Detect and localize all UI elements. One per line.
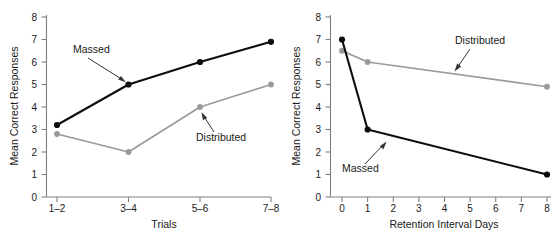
left-xtick-3-4: 3–4 [120, 203, 137, 214]
left-ytick-0: 0 [31, 192, 37, 203]
right-x-ticks [342, 197, 547, 202]
figure-two-panel-line-charts: 0 1 2 3 4 5 6 7 8 1–2 3–4 5–6 7–8 Trials… [0, 0, 560, 237]
chart-panel-left: 0 1 2 3 4 5 6 7 8 1–2 3–4 5–6 7–8 Trials… [0, 0, 280, 237]
right-leader-distributed-arrowhead [455, 64, 462, 72]
right-series-distributed-line [342, 51, 547, 87]
left-ytick-4: 4 [31, 102, 37, 113]
right-xtick-1: 1 [365, 203, 371, 214]
chart-panel-right: 0 1 2 3 4 5 6 7 8 0 1 2 [280, 0, 560, 237]
left-ytick-5: 5 [31, 79, 37, 90]
left-label-distributed: Distributed [196, 131, 246, 143]
left-x-axis-title: Trials [151, 218, 176, 230]
left-y-axis-title: Mean Correct Responses [8, 46, 20, 165]
left-ytick-8: 8 [31, 12, 37, 23]
left-leader-massed-arrowhead [118, 76, 126, 83]
right-xtick-4: 4 [442, 203, 448, 214]
right-xtick-2: 2 [390, 203, 396, 214]
right-xtick-5: 5 [467, 203, 473, 214]
right-ytick-5: 5 [315, 79, 321, 90]
right-xtick-8: 8 [544, 203, 550, 214]
left-xtick-7-8: 7–8 [263, 203, 280, 214]
right-x-axis-title: Retention Interval Days [389, 218, 498, 230]
left-xtick-5-6: 5–6 [192, 203, 209, 214]
left-series-distributed-points [54, 82, 274, 155]
right-label-distributed: Distributed [455, 34, 505, 46]
right-series-massed-points [339, 36, 550, 177]
right-xtick-6: 6 [493, 203, 499, 214]
right-leader-massed-arrowhead [380, 142, 387, 150]
right-ytick-8: 8 [315, 12, 321, 23]
right-ytick-0: 0 [315, 192, 321, 203]
left-ytick-1: 1 [31, 169, 37, 180]
right-xtick-0: 0 [339, 203, 345, 214]
right-ytick-7: 7 [315, 34, 321, 45]
left-label-massed: Massed [73, 43, 110, 55]
right-y-ticks [326, 17, 331, 197]
left-ytick-2: 2 [31, 147, 37, 158]
left-leader-distributed-arrowhead [202, 112, 208, 120]
right-y-axis-title: Mean Correct Responses [290, 46, 302, 165]
right-ytick-1: 1 [315, 169, 321, 180]
left-x-ticks [57, 197, 271, 202]
right-xtick-3: 3 [416, 203, 422, 214]
right-label-massed: Massed [342, 162, 379, 174]
right-series-massed-line [342, 40, 547, 175]
right-xtick-7: 7 [519, 203, 525, 214]
left-xtick-1-2: 1–2 [49, 203, 66, 214]
left-ytick-7: 7 [31, 34, 37, 45]
right-ytick-6: 6 [315, 57, 321, 68]
left-ytick-3: 3 [31, 124, 37, 135]
left-y-ticks [42, 17, 47, 197]
left-leader-massed [88, 58, 123, 80]
right-ytick-2: 2 [315, 147, 321, 158]
right-ytick-4: 4 [315, 102, 321, 113]
right-ytick-3: 3 [315, 124, 321, 135]
left-ytick-6: 6 [31, 57, 37, 68]
